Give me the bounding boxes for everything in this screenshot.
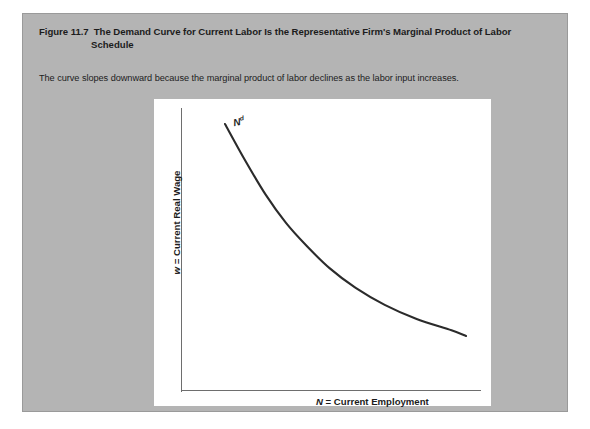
page-root: Figure 11.7 The Demand Curve for Current… [0, 0, 590, 429]
figure-number: Figure 11.7 [39, 26, 89, 37]
x-axis-label-variable: N [316, 396, 323, 407]
figure-caption: The curve slopes downward because the ma… [39, 72, 553, 84]
x-axis-label: N = Current Employment [316, 396, 429, 407]
x-axis-label-text: = Current Employment [323, 396, 429, 407]
figure-title-line-2: Schedule [39, 38, 553, 51]
demand-curve-path [225, 124, 466, 336]
demand-curve-layer [154, 99, 491, 406]
figure-title-line-1: Figure 11.7 The Demand Curve for Current… [39, 25, 553, 38]
figure-header: Figure 11.7 The Demand Curve for Current… [39, 25, 553, 51]
figure-title-text: The Demand Curve for Current Labor Is th… [94, 26, 511, 37]
y-axis-label: w = Current Real Wage [171, 148, 182, 298]
plot-panel: Nd w = Current Real Wage N = Current Emp… [154, 99, 491, 406]
figure-card: Figure 11.7 The Demand Curve for Current… [22, 13, 568, 412]
curve-label-nd: Nd [232, 114, 245, 128]
y-axis-label-text: = Current Real Wage [171, 171, 182, 267]
y-axis-label-variable: w [171, 267, 182, 274]
